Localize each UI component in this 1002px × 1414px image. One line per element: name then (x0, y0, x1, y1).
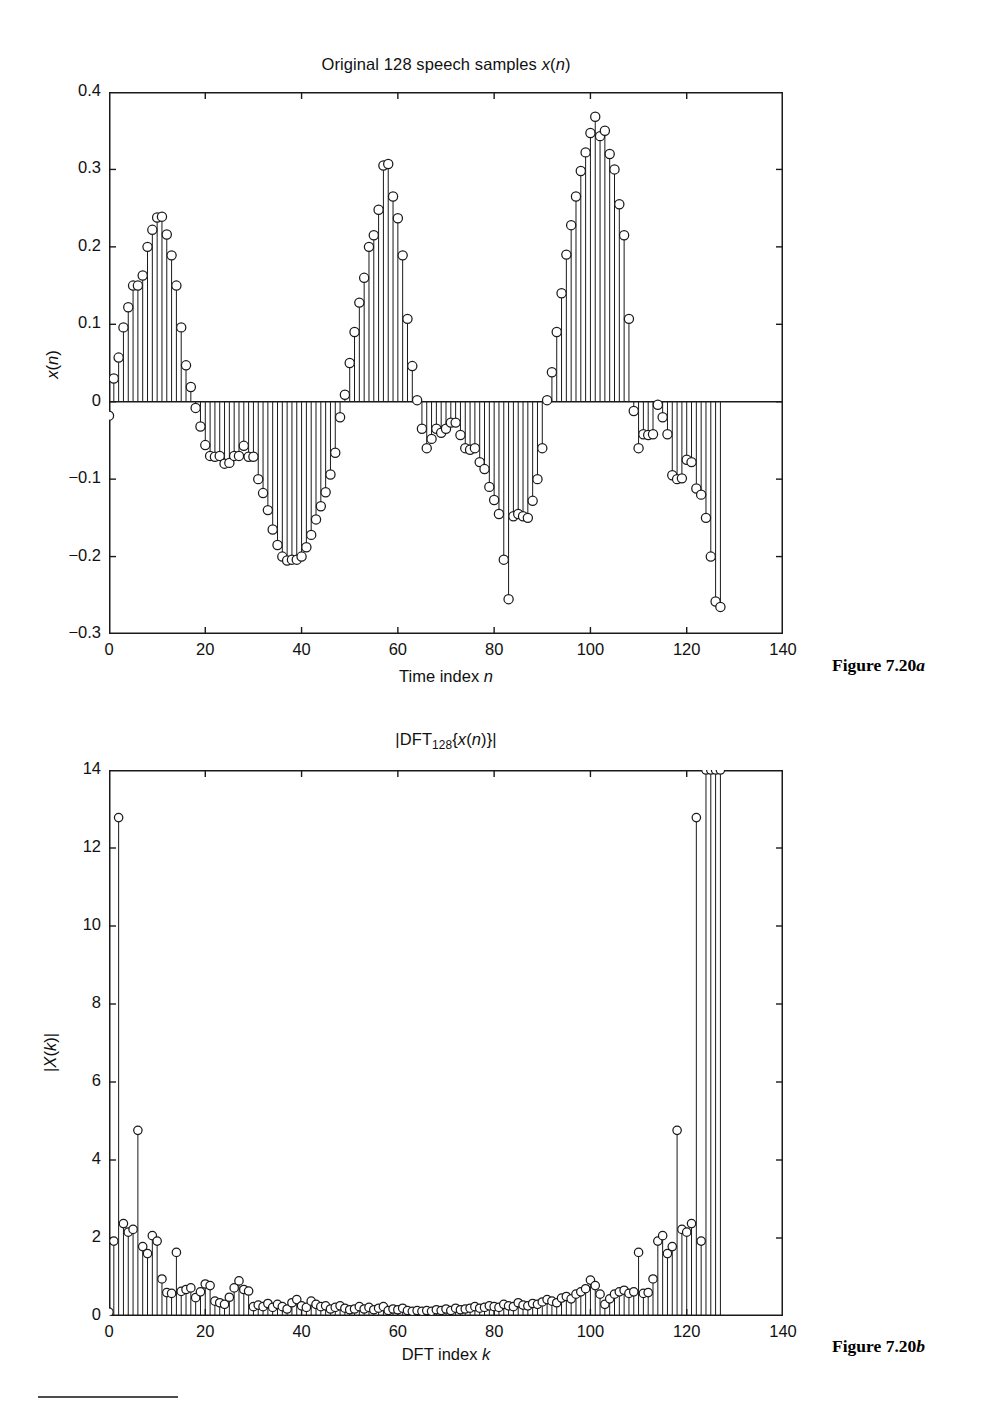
figure-caption-a-suffix: a (916, 655, 925, 675)
figure-caption-b-prefix: Figure 7.20 (832, 1336, 916, 1356)
chart-a-xtick-label: 140 (753, 640, 813, 659)
chart-b-ytick-label: 12 (83, 837, 101, 856)
chart-b-y-axis-label: |X(k)| (41, 993, 60, 1113)
figure-caption-a-prefix: Figure 7.20 (832, 655, 916, 675)
chart-a-x-axis-label: Time index n (109, 667, 783, 686)
chart-a-ytick-label: −0.2 (68, 546, 101, 565)
chart-a-ytick-label: 0.1 (78, 313, 101, 332)
chart-a-ytick-label: 0 (92, 391, 101, 410)
chart-a-y-axis-label: x(n) (43, 305, 62, 425)
chart-b-xtick-label: 120 (657, 1322, 717, 1341)
chart-a-xtick-label: 20 (175, 640, 235, 659)
figure-caption-b: Figure 7.20b (832, 1336, 925, 1357)
chart-a-xtick-label: 80 (464, 640, 524, 659)
chart-a-ytick-label: −0.3 (68, 623, 101, 642)
chart-b-xtick-label: 140 (753, 1322, 813, 1341)
figure-7-20a-block: Original 128 speech samples x(n) x(n) 02… (0, 0, 1002, 700)
chart-b-ytick-label: 0 (92, 1305, 101, 1324)
chart-b-x-axis-label: DFT index k (109, 1345, 783, 1364)
chart-b-ytick-label: 6 (92, 1071, 101, 1090)
chart-b-xtick-label: 40 (272, 1322, 332, 1341)
chart-a-plot-area: 020406080100120140−0.3−0.2−0.100.10.20.3… (109, 92, 783, 634)
page-footnote-rule (38, 1396, 178, 1398)
chart-a-xtick-label: 40 (272, 640, 332, 659)
chart-b-xtick-label: 0 (79, 1322, 139, 1341)
chart-b-xtick-label: 100 (560, 1322, 620, 1341)
chart-b-ytick-label: 8 (92, 993, 101, 1012)
chart-b-ytick-label: 10 (83, 915, 101, 934)
chart-a-xtick-label: 60 (368, 640, 428, 659)
chart-a-xtick-label: 0 (79, 640, 139, 659)
chart-b-plot-area: 02040608010012014002468101214 (109, 770, 783, 1316)
chart-b-title: |DFT128{x(n)}| (109, 730, 783, 752)
chart-b-ytick-label: 14 (83, 759, 101, 778)
chart-a-title: Original 128 speech samples x(n) (109, 55, 783, 74)
chart-a-ytick-label: 0.3 (78, 158, 101, 177)
chart-b-stem-plot (109, 770, 783, 1316)
chart-b-xtick-label: 20 (175, 1322, 235, 1341)
chart-a-xtick-label: 100 (560, 640, 620, 659)
chart-b-ytick-label: 2 (92, 1227, 101, 1246)
chart-a-ytick-label: −0.1 (68, 468, 101, 487)
chart-a-stem-plot (109, 92, 783, 634)
chart-a-xtick-label: 120 (657, 640, 717, 659)
chart-b-xtick-label: 80 (464, 1322, 524, 1341)
figure-caption-b-suffix: b (916, 1336, 925, 1356)
chart-b-xtick-label: 60 (368, 1322, 428, 1341)
chart-b-ytick-label: 4 (92, 1149, 101, 1168)
figure-caption-a: Figure 7.20a (832, 655, 925, 676)
chart-a-ytick-label: 0.2 (78, 236, 101, 255)
chart-a-ytick-label: 0.4 (78, 81, 101, 100)
